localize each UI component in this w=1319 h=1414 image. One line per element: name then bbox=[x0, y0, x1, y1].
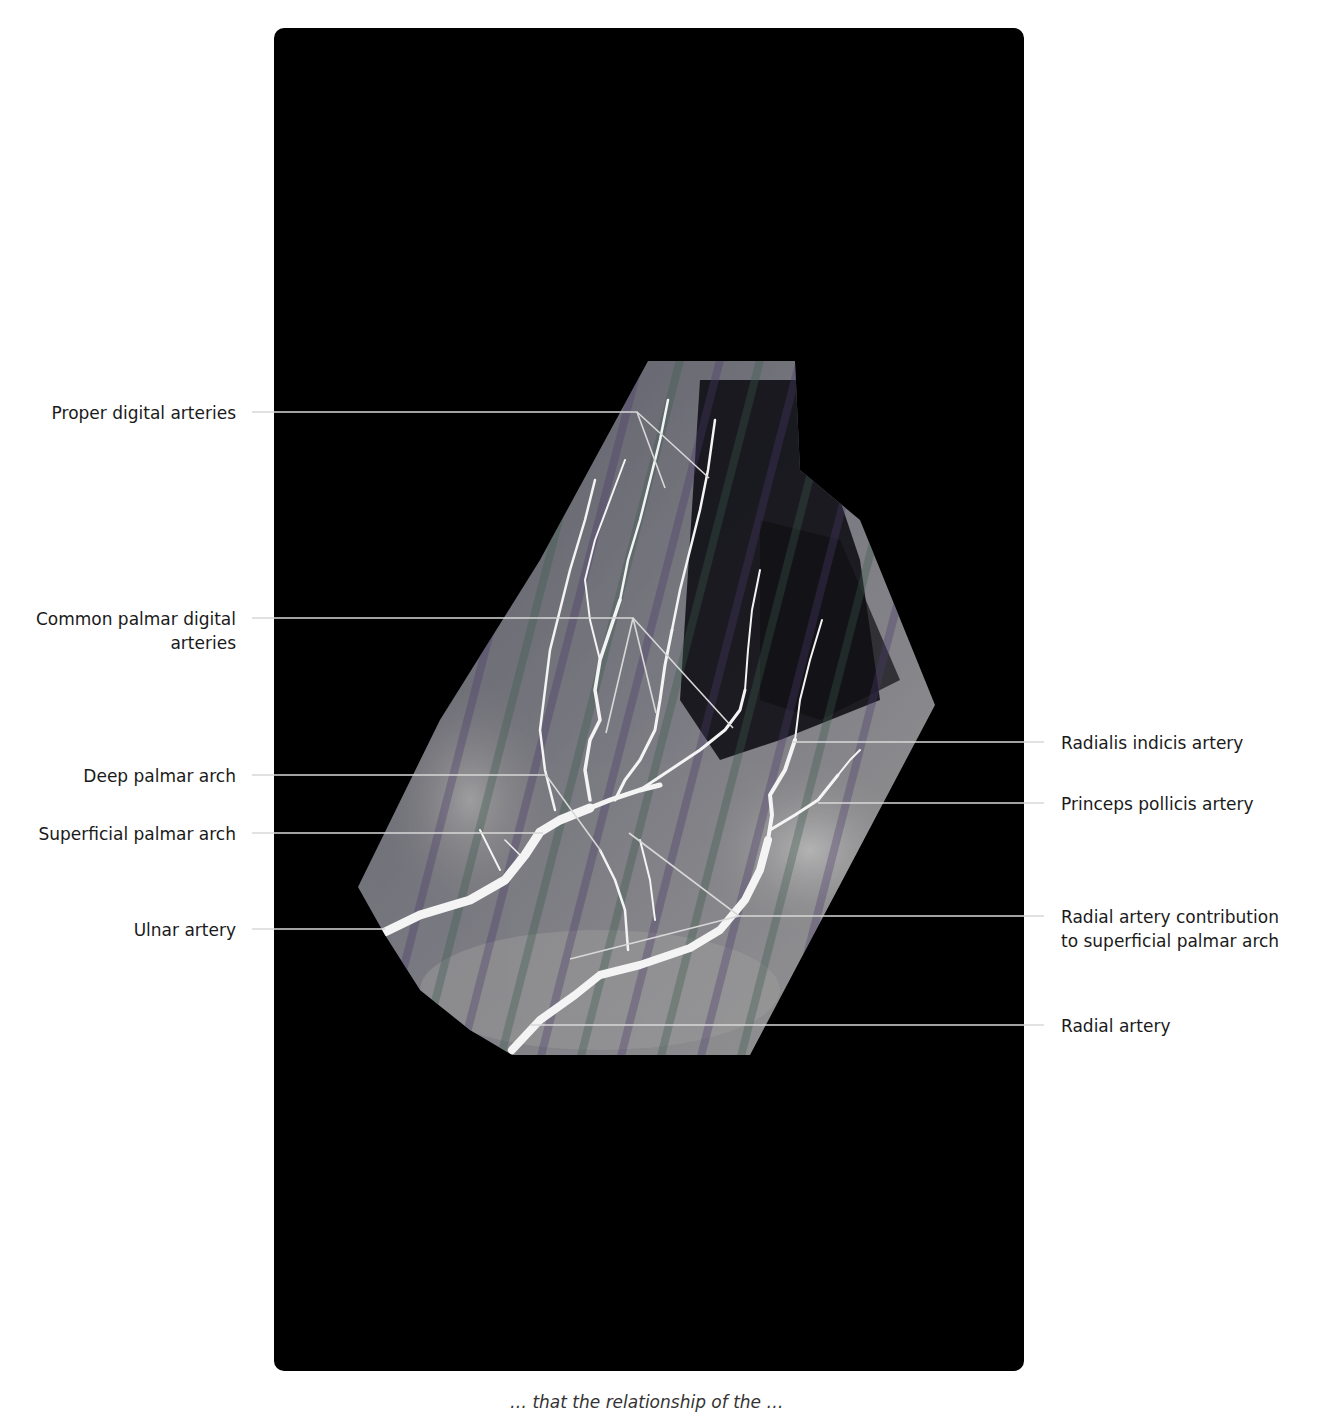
label-radial-artery: Radial artery bbox=[1061, 1014, 1171, 1038]
label-text-line-2: arteries bbox=[36, 631, 236, 655]
label-proper-digital-arteries: Proper digital arteries bbox=[52, 401, 236, 425]
label-princeps-pollicis-artery: Princeps pollicis artery bbox=[1061, 792, 1254, 816]
label-text: Princeps pollicis artery bbox=[1061, 794, 1254, 814]
label-deep-palmar-arch: Deep palmar arch bbox=[83, 764, 236, 788]
angiogram-panel bbox=[274, 28, 1024, 1371]
label-text-line-1: Radial artery contribution bbox=[1061, 905, 1279, 929]
label-ulnar-artery: Ulnar artery bbox=[134, 918, 236, 942]
label-text: Radial artery bbox=[1061, 1016, 1171, 1036]
label-text: Proper digital arteries bbox=[52, 403, 236, 423]
label-text-line-2: to superficial palmar arch bbox=[1061, 929, 1279, 953]
label-superficial-palmar-arch: Superficial palmar arch bbox=[38, 822, 236, 846]
label-radial-artery-contribution: Radial artery contribution to superficia… bbox=[1061, 905, 1279, 953]
label-text: Deep palmar arch bbox=[83, 766, 236, 786]
label-radialis-indicis-artery: Radialis indicis artery bbox=[1061, 731, 1243, 755]
label-common-palmar-digital-arteries: Common palmar digital arteries bbox=[36, 607, 236, 655]
label-text-line-1: Common palmar digital bbox=[36, 607, 236, 631]
label-text: Ulnar artery bbox=[134, 920, 236, 940]
label-text: Superficial palmar arch bbox=[38, 824, 236, 844]
figure-caption: … that the relationship of the … bbox=[510, 1390, 1310, 1414]
label-text: Radialis indicis artery bbox=[1061, 733, 1243, 753]
